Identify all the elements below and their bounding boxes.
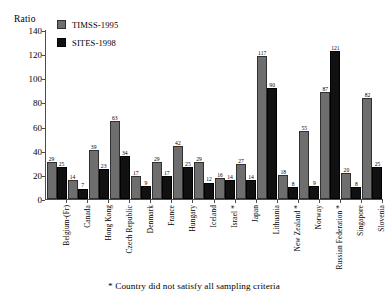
bar-value-label: 23 xyxy=(101,164,107,170)
x-tick-cell xyxy=(320,200,341,204)
bar-sites[interactable]: 8 xyxy=(351,187,361,199)
bar-sites[interactable]: 121 xyxy=(330,51,340,199)
bar-timss[interactable]: 17 xyxy=(131,176,141,199)
x-label-cell: Canada xyxy=(67,205,88,273)
x-tick-cell xyxy=(88,200,109,204)
bar-group: 147 xyxy=(67,30,88,199)
bar-value-label: 20 xyxy=(344,168,350,174)
bar-group: 6334 xyxy=(109,30,130,199)
bar-timss[interactable]: 42 xyxy=(173,146,183,199)
y-tick-mark xyxy=(42,128,45,129)
y-tick-mark xyxy=(42,200,45,201)
bar-timss[interactable]: 16 xyxy=(215,178,225,199)
bar-timss[interactable]: 55 xyxy=(299,131,309,199)
bar-timss[interactable]: 63 xyxy=(110,121,120,199)
bar-pair: 179 xyxy=(131,30,151,199)
bar-pair: 3923 xyxy=(89,30,109,199)
bar-pair: 2917 xyxy=(152,30,172,199)
y-tick-label: 140 xyxy=(4,27,42,36)
x-tick-cell xyxy=(193,200,214,204)
bar-timss[interactable]: 20 xyxy=(341,173,351,199)
x-tick-mark xyxy=(382,200,383,203)
bar-value-label: 14 xyxy=(248,175,254,181)
bar-sites[interactable]: 25 xyxy=(372,167,382,199)
x-label-cell: Norway xyxy=(299,205,320,273)
legend-label-timss: TIMSS-1995 xyxy=(72,20,118,30)
bar-group: 2714 xyxy=(236,30,257,199)
bar-pair: 2925 xyxy=(47,30,67,199)
bar-group: 208 xyxy=(341,30,362,199)
x-label-cell: Iceland xyxy=(193,205,214,273)
x-axis-label: Slovenia xyxy=(377,205,386,232)
x-label-cell: New Zealand * xyxy=(278,205,299,273)
legend-swatch-timss xyxy=(57,20,66,29)
bar-sites[interactable]: 9 xyxy=(141,186,151,199)
y-tick-label: 40 xyxy=(4,147,42,156)
x-tick-cell xyxy=(46,200,67,204)
ratio-bar-chart: Ratio TIMSS-1995 SITES-1998 020406080100… xyxy=(0,0,388,305)
bar-group: 2917 xyxy=(151,30,172,199)
bar-timss[interactable]: 14 xyxy=(68,180,78,199)
bar-timss[interactable]: 18 xyxy=(278,175,288,199)
bar-timss[interactable]: 29 xyxy=(152,162,162,199)
x-label-cell: Hong Kong xyxy=(88,205,109,273)
x-label-cell: Japan xyxy=(236,205,257,273)
bar-group: 1614 xyxy=(215,30,236,199)
bar-value-label: 29 xyxy=(154,157,160,163)
bar-sites[interactable]: 12 xyxy=(204,183,214,199)
y-tick-mark xyxy=(42,55,45,56)
bar-pair: 8225 xyxy=(362,30,382,199)
bar-sites[interactable]: 25 xyxy=(57,167,67,199)
bar-timss[interactable]: 27 xyxy=(236,164,246,199)
bar-timss[interactable]: 29 xyxy=(194,162,204,199)
x-tick-cell xyxy=(362,200,383,204)
y-tick-mark xyxy=(42,176,45,177)
x-label-cell: Lithuania xyxy=(257,205,278,273)
x-tick-cell xyxy=(109,200,130,204)
y-tick-mark xyxy=(42,79,45,80)
bar-value-label: 117 xyxy=(258,51,266,57)
bar-sites[interactable]: 34 xyxy=(120,156,130,199)
chart-footnote: * Country did not satisfy all sampling c… xyxy=(0,281,388,291)
bar-sites[interactable]: 25 xyxy=(183,167,193,199)
x-tick-cell xyxy=(172,200,193,204)
bar-timss[interactable]: 117 xyxy=(257,56,267,199)
bar-sites[interactable]: 90 xyxy=(267,88,277,199)
x-label-cell: Denmark xyxy=(130,205,151,273)
x-tick-cell xyxy=(257,200,278,204)
x-label-cell: Slovenia xyxy=(362,205,383,273)
bar-value-label: 17 xyxy=(164,171,170,177)
bar-value-label: 29 xyxy=(196,157,202,163)
bar-timss[interactable]: 29 xyxy=(47,162,57,199)
bar-sites[interactable]: 17 xyxy=(162,176,172,199)
bar-value-label: 87 xyxy=(323,87,329,93)
bar-timss[interactable]: 39 xyxy=(89,150,99,199)
bar-pair: 559 xyxy=(299,30,319,199)
bar-sites[interactable]: 23 xyxy=(99,169,109,199)
bar-sites[interactable]: 7 xyxy=(78,189,88,199)
bar-group: 2925 xyxy=(46,30,67,199)
x-label-cell: Hungary xyxy=(172,205,193,273)
bar-timss[interactable]: 82 xyxy=(362,98,372,199)
bar-sites[interactable]: 14 xyxy=(225,180,235,199)
bar-value-label: 42 xyxy=(175,141,181,147)
bar-value-label: 63 xyxy=(112,116,118,122)
x-axis-labels: Belgium-(Fr)CanadaHong KongCzech Republi… xyxy=(46,205,383,273)
bar-sites[interactable]: 14 xyxy=(246,180,256,199)
bar-group: 11790 xyxy=(257,30,278,199)
bar-group: 87121 xyxy=(320,30,341,199)
bar-group: 3923 xyxy=(88,30,109,199)
bar-sites[interactable]: 9 xyxy=(309,186,319,199)
y-tick-label: 100 xyxy=(4,75,42,84)
x-label-cell: Israel * xyxy=(215,205,236,273)
bar-pair: 11790 xyxy=(257,30,277,199)
bar-value-label: 8 xyxy=(355,182,358,188)
bar-sites[interactable]: 8 xyxy=(288,187,298,199)
bar-timss[interactable]: 87 xyxy=(320,92,330,199)
y-tick-mark xyxy=(42,152,45,153)
bar-group: 188 xyxy=(278,30,299,199)
x-tick-cell xyxy=(151,200,172,204)
bar-group: 8225 xyxy=(362,30,383,199)
y-tick-mark xyxy=(42,31,45,32)
y-tick-label: 0 xyxy=(4,196,42,205)
